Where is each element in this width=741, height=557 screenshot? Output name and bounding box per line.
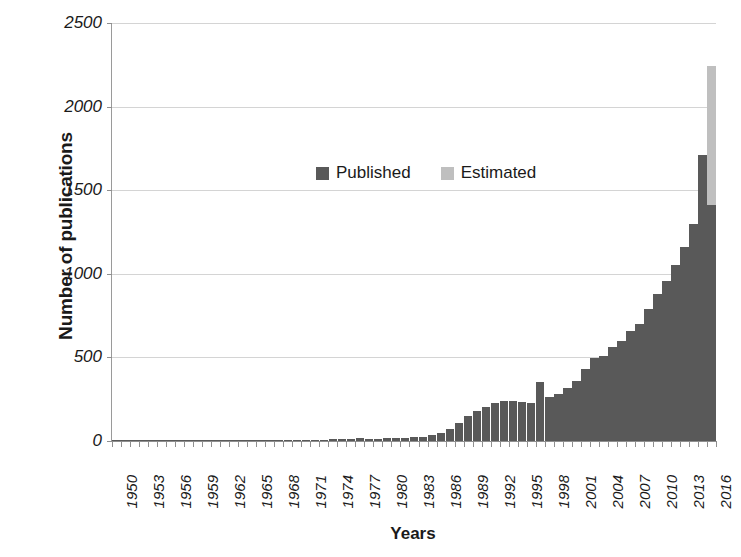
bar-segment-published[interactable] [473,411,482,441]
bar-segment-published[interactable] [617,341,626,441]
x-tick-mark [590,441,591,447]
legend-item-published: Published [316,163,411,183]
bar-segment-published[interactable] [446,429,455,441]
bar-segment-published[interactable] [383,438,392,441]
bar-segment-published[interactable] [428,435,437,441]
bar-segment-published[interactable] [509,401,518,441]
x-tick-mark [428,441,429,447]
x-tick-label: 1959 [204,475,221,508]
bar-segment-published[interactable] [626,331,635,441]
bar-segment-published[interactable] [302,440,311,441]
x-tick-label: 1962 [231,475,248,508]
bar-segment-published[interactable] [193,440,202,441]
x-axis-title: Years [110,524,716,544]
x-tick-mark [355,441,356,447]
bar-segment-published[interactable] [689,224,698,441]
x-tick-mark [382,441,383,447]
bar-segment-published[interactable] [374,439,383,441]
bar-segment-published[interactable] [148,440,157,441]
x-tick-mark [500,441,501,447]
bar-segment-published[interactable] [247,440,256,441]
bar-segment-published[interactable] [356,438,365,441]
bar-segment-published[interactable] [256,440,265,441]
x-tick-label: 1980 [393,475,410,508]
bar-segment-published[interactable] [554,394,563,441]
bar-segment-published[interactable] [311,440,320,441]
x-tick-label: 1998 [555,475,572,508]
bar-segment-published[interactable] [401,438,410,441]
x-tick-mark [274,441,275,447]
bar-segment-published[interactable] [229,440,238,441]
x-tick-label: 1968 [285,475,302,508]
bar-segment-published[interactable] [518,402,527,441]
bar-segment-estimated[interactable] [707,66,716,205]
bar-segment-published[interactable] [220,440,229,441]
bar-segment-published[interactable] [347,439,356,441]
bar-segment-published[interactable] [455,423,464,441]
bar-segment-published[interactable] [464,416,473,441]
bar-segment-published[interactable] [211,440,220,441]
bar-segment-published[interactable] [320,440,329,442]
x-tick-mark [265,441,266,447]
x-tick-mark [563,441,564,447]
bar-segment-published[interactable] [536,382,545,441]
bar-segment-published[interactable] [338,439,347,441]
x-tick-mark [482,441,483,447]
bar-segment-published[interactable] [644,309,653,441]
bar-segment-published[interactable] [590,358,599,441]
x-tick-mark [157,441,158,447]
bar-segment-published[interactable] [121,440,130,441]
x-tick-mark [409,441,410,447]
bar-segment-published[interactable] [698,155,707,441]
bar-segment-published[interactable] [265,440,274,441]
x-tick-mark [130,441,131,447]
bar-segment-published[interactable] [500,401,509,441]
bar-segment-published[interactable] [329,439,338,441]
bar-segment-published[interactable] [184,440,193,441]
x-tick-mark [662,441,663,447]
bar-segment-published[interactable] [671,265,680,441]
x-tick-mark [635,441,636,447]
x-tick-label: 1965 [258,475,275,508]
bar-segment-published[interactable] [175,440,184,441]
bar-segment-published[interactable] [482,407,491,441]
x-tick-mark [184,441,185,447]
bar-segment-published[interactable] [419,437,428,441]
bar-segment-published[interactable] [238,440,247,441]
bar-segment-published[interactable] [491,403,500,441]
bar-segment-published[interactable] [139,440,148,441]
bar-segment-published[interactable] [392,438,401,441]
x-tick-mark [419,441,420,447]
x-tick-mark [301,441,302,447]
x-tick-mark [473,441,474,447]
bar-segment-published[interactable] [284,440,293,441]
bar-segment-published[interactable] [527,403,536,441]
bar-segment-published[interactable] [202,440,211,441]
bar-segment-published[interactable] [293,440,302,441]
bar-segment-published[interactable] [680,247,689,441]
bar-segment-published[interactable] [662,281,671,442]
bar-segment-published[interactable] [166,440,175,441]
bar-segment-published[interactable] [572,381,581,441]
bar-segment-published[interactable] [653,294,662,441]
bar-segment-published[interactable] [707,205,716,441]
bar-segment-published[interactable] [563,388,572,442]
bar-segment-published[interactable] [274,440,283,441]
bar-segment-published[interactable] [437,433,446,441]
bar-segment-published[interactable] [157,440,166,441]
publications-bar-chart: Number of publications 19501953195619591… [0,0,741,557]
bar-segment-published[interactable] [608,347,617,441]
bar-segment-published[interactable] [130,440,139,441]
bar-segment-published[interactable] [545,397,554,441]
bar-segment-published[interactable] [365,439,374,442]
x-tick-mark [716,441,717,447]
bar-segment-published[interactable] [112,440,121,441]
bar-segment-published[interactable] [410,437,419,441]
bar-segment-published[interactable] [599,356,608,441]
bar-segment-published[interactable] [581,369,590,441]
x-tick-label: 1995 [528,475,545,508]
x-tick-label: 2016 [717,475,734,508]
x-tick-mark [617,441,618,447]
x-tick-mark [193,441,194,447]
bar-segment-published[interactable] [635,324,644,441]
